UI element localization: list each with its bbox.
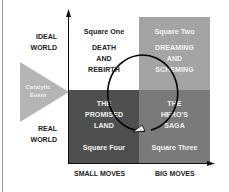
cycle-arrowhead-icon bbox=[133, 125, 145, 132]
x-axis-arrow-icon bbox=[207, 161, 215, 166]
cycle-circle bbox=[108, 55, 178, 131]
axes-and-cycle bbox=[0, 0, 229, 192]
y-axis-arrow-icon bbox=[66, 9, 71, 17]
